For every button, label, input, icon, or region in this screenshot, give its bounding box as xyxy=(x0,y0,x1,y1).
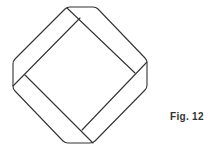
outer-outline xyxy=(13,7,147,143)
figure-caption: Fig. 12 xyxy=(170,111,204,122)
band-line-top xyxy=(67,8,135,73)
folded-frame-diagram xyxy=(0,0,210,151)
band-line-bottom xyxy=(25,75,93,143)
band-line-right xyxy=(82,62,147,130)
